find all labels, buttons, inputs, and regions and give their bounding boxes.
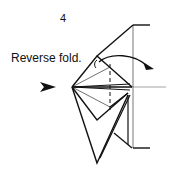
origami-diagram (0, 0, 179, 179)
push-arrow-icon (40, 82, 56, 92)
